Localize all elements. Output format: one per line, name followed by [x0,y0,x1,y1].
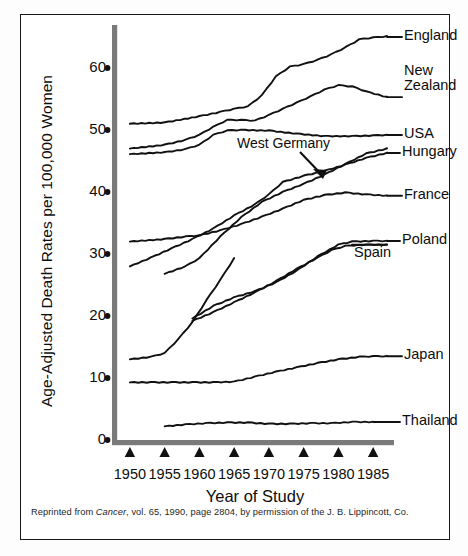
series-label-france: France [404,187,449,202]
series-line-hungary [130,153,387,267]
y-axis-line [112,25,117,444]
x-axis-ticks: 19501955196019651970197519801985 [0,466,468,488]
y-tick-label-50: 50 [72,120,106,137]
series-label-poland: Poland [402,232,447,247]
y-tick-label-0: 0 [72,430,106,447]
series-label-usa: USA [404,126,434,141]
series-line-thailand [165,422,374,427]
caption-journal-name: Cancer [96,507,126,517]
x-tick-triangle-1975 [298,447,308,457]
y-tick-label-20: 20 [72,306,106,323]
y-tick-label-10: 10 [72,368,106,385]
series-label-spain: Spain [354,245,391,260]
x-tick-triangle-1985 [368,447,378,457]
x-tick-triangle-1980 [333,447,343,457]
figure-container: 0102030405060 Age-Adjusted Death Rates p… [0,0,468,556]
y-tick-label-40: 40 [72,182,106,199]
x-tick-triangle-1965 [229,447,239,457]
series-label-england: England [404,28,457,43]
x-tick-triangle-1960 [194,447,204,457]
west-germany-annotation: West Germany [237,135,330,151]
x-axis-title: Year of Study [110,487,400,506]
caption-suffix: , vol. 65, 1990, page 2804, by permissio… [126,507,409,517]
series-line-england [130,36,387,124]
x-tick-triangle-1970 [264,447,274,457]
source-caption: Reprinted from Cancer, vol. 65, 1990, pa… [31,507,431,517]
series-label-hungary: Hungary [402,144,457,159]
series-label-japan: Japan [404,347,444,362]
x-tick-label-1985: 1985 [350,466,396,482]
series-line-france [130,192,387,241]
series-line-japan-lower [130,356,387,383]
series-label-thailand: Thailand [402,413,458,428]
series-label-line: Zealand [404,78,456,93]
y-axis-title: Age-Adjusted Death Rates per 100,000 Wom… [38,26,56,456]
series-label-new-zealand: NewZealand [404,63,456,93]
x-tick-triangle-1950 [125,447,135,457]
y-tick-label-60: 60 [72,58,106,75]
x-tick-triangle-1955 [159,447,169,457]
y-tick-label-30: 30 [72,244,106,261]
caption-prefix: Reprinted from [31,507,96,517]
x-axis-line [112,440,394,445]
series-label-line: New [404,63,456,78]
